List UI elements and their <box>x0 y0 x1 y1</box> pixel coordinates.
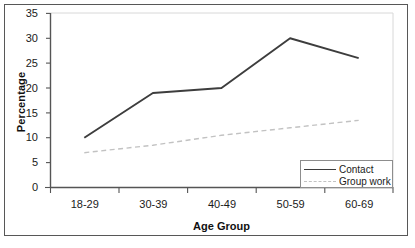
legend-label-group-work: Group work <box>339 176 391 187</box>
legend-line-group-work-icon <box>301 176 339 187</box>
x-tick-label-40-49: 40-49 <box>187 199 257 210</box>
legend-entry-contact: Contact <box>301 163 392 175</box>
legend-label-contact: Contact <box>339 164 373 175</box>
chart-legend: Contact Group work <box>300 160 393 188</box>
y-tick-label-0: 0 <box>8 182 38 193</box>
x-tick-label-30-39: 30-39 <box>118 199 188 210</box>
legend-line-contact-icon <box>301 164 339 175</box>
chart-figure: 0 5 10 15 20 25 30 35 18-29 30-39 40-49 … <box>0 0 415 248</box>
x-tick-label-60-69: 60-69 <box>324 199 394 210</box>
x-tick-label-50-59: 50-59 <box>256 199 326 210</box>
chart-plot-svg <box>0 0 415 248</box>
y-tick-label-35: 35 <box>8 8 38 19</box>
y-tick-label-5: 5 <box>8 157 38 168</box>
x-tick-label-18-29: 18-29 <box>50 199 120 210</box>
y-tick-label-30: 30 <box>8 33 38 44</box>
y-axis-ticks <box>45 13 50 187</box>
y-axis-title: Percentage <box>15 57 27 147</box>
x-axis-title: Age Group <box>50 220 393 232</box>
legend-entry-group-work: Group work <box>301 175 392 187</box>
